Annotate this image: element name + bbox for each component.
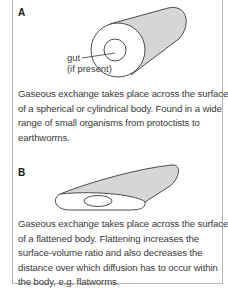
- gut-label: gut: [67, 52, 112, 63]
- desc-line: range of small organisms from protoctist…: [18, 116, 222, 131]
- desc-line: the body, e.g. flatworms.: [18, 275, 222, 290]
- desc-line: earthworms.: [18, 131, 222, 146]
- desc-line: distance over which diffusion has to occ…: [18, 261, 222, 276]
- panel-b-description: Gaseous exchange takes place across the …: [18, 217, 222, 290]
- desc-line: Gaseous exchange takes place across the …: [18, 87, 222, 102]
- flat-gut-ellipse: [84, 196, 112, 207]
- panel-a-description: Gaseous exchange takes place across the …: [18, 87, 222, 145]
- desc-line: Gaseous exchange takes place across the …: [18, 217, 222, 232]
- gut-qualifier: (if present): [67, 63, 112, 74]
- desc-line: of a flattened body. Flattening increase…: [18, 232, 222, 247]
- panel-b-label: B: [18, 167, 25, 178]
- gut-callout: gut (if present): [67, 52, 112, 74]
- desc-line: of a spherical or cylindrical body. Foun…: [18, 102, 222, 117]
- desc-line: surface-volume ratio and also decreases …: [18, 246, 222, 261]
